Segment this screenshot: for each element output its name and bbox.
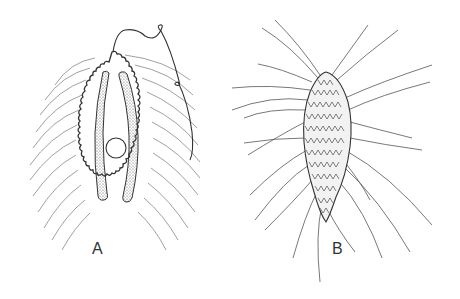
panel-b-label: B bbox=[332, 240, 343, 258]
panel-a-nucleus bbox=[106, 138, 126, 158]
panel-a-organism bbox=[30, 25, 200, 250]
figure-canvas: A B bbox=[0, 0, 460, 299]
panel-a-label: A bbox=[92, 240, 103, 258]
illustration bbox=[0, 0, 460, 299]
